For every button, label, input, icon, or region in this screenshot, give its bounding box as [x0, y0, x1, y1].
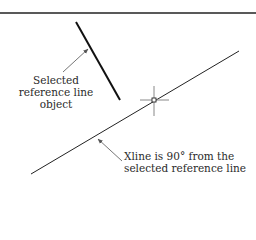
xline-label-line-2: selected reference line [124, 162, 246, 174]
pickbox-icon [152, 98, 156, 102]
xline-label-line-1: Xline is 90° from the [124, 150, 246, 162]
reference-line-label-line-3: object [14, 98, 98, 110]
reference-line-leader-arrow [63, 49, 88, 72]
crosshair-cursor-icon [140, 86, 169, 116]
xline-leader-arrow [98, 139, 122, 161]
xline-label: Xline is 90° from the selected reference… [124, 150, 246, 174]
reference-line-label-line-1: Selected [14, 74, 98, 86]
reference-line-label-line-2: reference line [14, 86, 98, 98]
reference-line-label: Selected reference line object [14, 74, 98, 110]
